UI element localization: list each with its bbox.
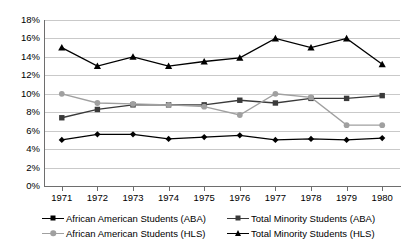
data-point (95, 100, 101, 106)
legend-swatch-marker (235, 230, 241, 236)
data-point (273, 91, 279, 97)
data-point (308, 136, 314, 142)
data-point (59, 115, 64, 120)
chart-legend: African American Students (ABA) Total Mi… (40, 211, 400, 245)
data-point (380, 93, 385, 98)
data-point (344, 122, 350, 128)
data-point (95, 107, 100, 112)
series-line (62, 96, 382, 118)
legend-item-label: Total Minority Students (ABA) (249, 213, 375, 224)
series-0 (59, 131, 386, 143)
legend-swatch-marker (50, 230, 56, 236)
data-point (379, 122, 385, 128)
data-point (94, 131, 100, 137)
data-point (166, 102, 172, 108)
triangle-marker-icon (227, 227, 249, 239)
line-chart: 0%2%4%6%8%10%12%14%16%18% 19711972197319… (0, 0, 413, 252)
data-point (308, 95, 314, 101)
data-point (273, 100, 278, 105)
legend-item-label: African American Students (ABA) (64, 213, 206, 224)
series-line (62, 38, 382, 66)
legend-item-african-american-hls[interactable]: African American Students (HLS) (42, 226, 205, 240)
data-point (237, 98, 242, 103)
data-point (344, 96, 349, 101)
data-point (344, 137, 350, 143)
series-3 (58, 35, 386, 69)
legend-item-african-american-aba[interactable]: African American Students (ABA) (42, 211, 206, 225)
legend-swatch-marker (236, 216, 241, 221)
data-point (129, 53, 136, 60)
data-point (59, 91, 65, 97)
circle-marker-icon (42, 227, 64, 239)
legend-swatch-marker (51, 216, 56, 221)
legend-item-label: Total Minority Students (HLS) (249, 228, 375, 239)
diamond-marker-icon (42, 212, 64, 224)
data-point (272, 137, 278, 143)
data-point (237, 132, 243, 138)
data-point (201, 104, 207, 110)
series-line (62, 134, 382, 140)
data-point (130, 101, 136, 107)
legend-item-total-minority-aba[interactable]: Total Minority Students (ABA) (227, 211, 375, 225)
square-marker-icon (227, 212, 249, 224)
data-point (379, 135, 385, 141)
data-point (166, 136, 172, 142)
data-point (272, 35, 279, 42)
legend-item-total-minority-hls[interactable]: Total Minority Students (HLS) (227, 226, 375, 240)
data-point (58, 44, 65, 51)
data-point (343, 35, 350, 42)
data-point (237, 112, 243, 118)
series-2 (59, 91, 385, 128)
data-point (130, 131, 136, 137)
data-point (201, 134, 207, 140)
legend-item-label: African American Students (HLS) (64, 228, 205, 239)
data-point (59, 137, 65, 143)
